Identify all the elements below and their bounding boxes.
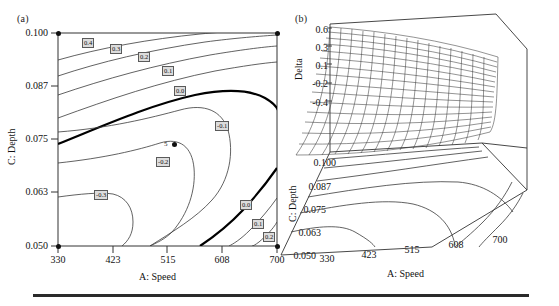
base-plane-contours — [291, 147, 523, 247]
corner-point-bottom-left — [56, 244, 61, 249]
contour-label-7: -0.3 — [94, 190, 108, 200]
contour-label-9: 0.1 — [252, 219, 264, 229]
contour-label-2: 0.2 — [138, 52, 150, 62]
contour-label-10: 0.2 — [263, 232, 275, 242]
contour-neg-0-3 — [58, 193, 133, 246]
contour-label-1: 0.3 — [110, 44, 122, 54]
contour-neg-0-2 — [58, 141, 194, 246]
design-point-label: 5 — [164, 140, 168, 148]
contour-label-8: 0.0 — [240, 200, 252, 210]
contour-label-5: -0.1 — [215, 121, 229, 131]
contour-label-0: 0.4 — [82, 38, 94, 48]
panel-b-surface-plot: (b) 0.6 0.3 0.1 -0.2 -0.4 Delta 0.100 0.… — [283, 0, 559, 306]
contour-0-0-bold-upper — [58, 91, 278, 144]
corner-point-top-left — [56, 31, 61, 36]
contour-label-6: -0.2 — [156, 157, 170, 167]
response-surface-mesh — [296, 27, 498, 155]
panel-b-svg — [283, 0, 559, 306]
figure-container: (a) 0.100 0.087 0.075 0.063 0.050 C: Dep… — [0, 0, 559, 306]
contour-neg-0-1 — [58, 107, 231, 246]
panel-a-svg — [0, 0, 290, 306]
design-point-marker — [172, 142, 177, 147]
contour-label-3: 0.1 — [162, 66, 174, 76]
bottom-horizontal-rule — [33, 294, 529, 297]
contour-label-4: 0.0 — [174, 86, 186, 96]
corner-point-top-right — [275, 31, 280, 36]
panel-a-contour-plot: (a) 0.100 0.087 0.075 0.063 0.050 C: Dep… — [0, 0, 290, 306]
corner-point-bottom-right — [275, 244, 280, 249]
